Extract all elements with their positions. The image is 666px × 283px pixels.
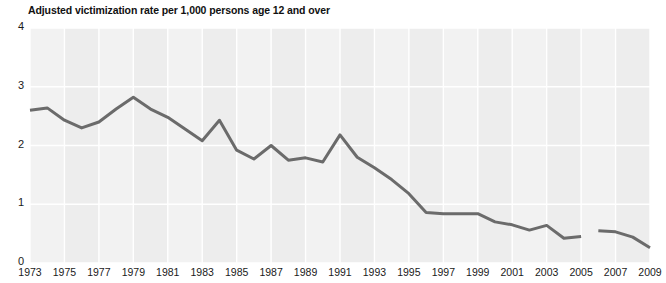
y-axis-tick-label: 3 xyxy=(2,79,24,91)
y-axis-tick-label: 4 xyxy=(2,20,24,32)
y-axis-tick-label: 1 xyxy=(2,196,24,208)
y-axis-tick-label: 2 xyxy=(2,138,24,150)
x-axis-tick-label: 2009 xyxy=(630,266,666,278)
